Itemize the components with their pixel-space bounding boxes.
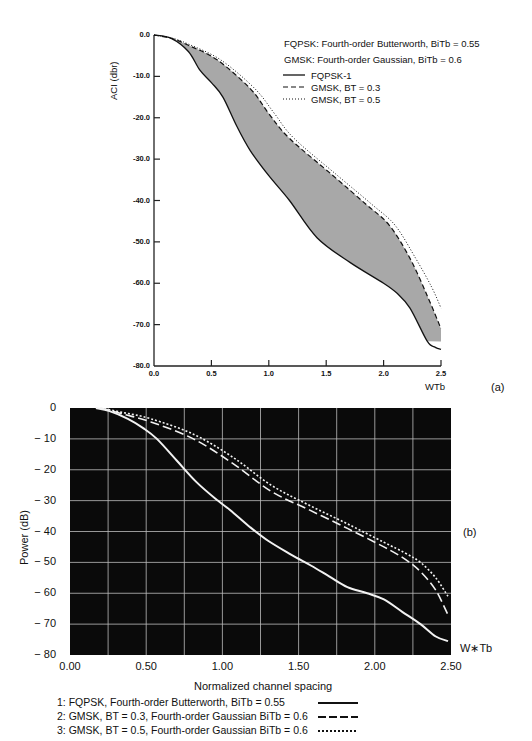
chart-a-xtick-label: 2.5 bbox=[436, 369, 446, 378]
chart-b-xtick-label: 2.50 bbox=[440, 660, 461, 672]
chart-a-subtitle-2: GMSK: Fourth-order Gaussian, BiTb = 0.6 bbox=[284, 54, 462, 65]
chart-b-axis-end-label: W∗Tb bbox=[460, 642, 492, 655]
chart-a-ytick-label: -20.0 bbox=[133, 113, 150, 122]
chart-b-xtick-label: 0.00 bbox=[59, 660, 80, 672]
figure: ACI (dbr) FQPSK: Fourth-order Butterwort… bbox=[0, 0, 532, 741]
chart-b-ytick-label: − 70 bbox=[34, 617, 56, 629]
chart-a-ytick-label: 0.0 bbox=[140, 30, 150, 39]
chart-b-ytick-label: − 20 bbox=[34, 463, 56, 475]
chart-b-xtick-label: 0.50 bbox=[135, 660, 156, 672]
chart-a-legend-2: GMSK, BT = 0.3 bbox=[311, 82, 380, 93]
chart-a-ytick-label: -70.0 bbox=[133, 320, 150, 329]
chart-b-xtick-label: 2.00 bbox=[364, 660, 385, 672]
chart-a-legend-3: GMSK, BT = 0.5 bbox=[311, 94, 380, 105]
chart-a-xtick-label: 1.0 bbox=[264, 369, 274, 378]
chart-b-xtick-label: 1.00 bbox=[212, 660, 233, 672]
chart-a-ytick-label: -60.0 bbox=[133, 278, 150, 287]
chart-a-xlabel: WTb bbox=[425, 381, 445, 392]
chart-b-ytick-label: − 80 bbox=[34, 648, 56, 660]
chart-a-ytick-label: -50.0 bbox=[133, 237, 150, 246]
chart-b-ytick-label: − 10 bbox=[34, 432, 56, 444]
chart-a-panel-label: (a) bbox=[491, 381, 504, 393]
chart-b-ytick-label: − 40 bbox=[34, 525, 56, 537]
chart-b-xlabel: Normalized channel spacing bbox=[194, 680, 332, 692]
chart-b-legend-1: 1: FQPSK, Fourth-order Butterworth, BiTb… bbox=[57, 696, 285, 708]
chart-b-ytick-label: 0 bbox=[50, 401, 56, 413]
chart-b-ytick-label: − 50 bbox=[34, 555, 56, 567]
chart-a-xtick-label: 2.0 bbox=[378, 369, 388, 378]
chart-b-ylabel: Power (dB) bbox=[18, 510, 30, 565]
chart-a-ytick-label: -40.0 bbox=[133, 196, 150, 205]
chart-a-subtitle-1: FQPSK: Fourth-order Butterworth, BiTb = … bbox=[284, 38, 480, 49]
chart-a-xtick-label: 0.0 bbox=[149, 369, 159, 378]
chart-b-xtick-label: 1.50 bbox=[288, 660, 309, 672]
chart-a-ytick-label: -30.0 bbox=[133, 154, 150, 163]
chart-a-legend-1: FQPSK-1 bbox=[311, 70, 352, 81]
chart-b-legend-3: 3: GMSK, BT = 0.5, Fourth-order Gaussian… bbox=[57, 724, 308, 736]
chart-a-xtick-label: 1.5 bbox=[321, 369, 331, 378]
chart-a-xtick-label: 0.5 bbox=[206, 369, 216, 378]
chart-a-shaded-region bbox=[154, 35, 441, 341]
chart-b-legend-2: 2: GMSK, BT = 0.3, Fourth-order Gaussian… bbox=[57, 710, 308, 722]
chart-a-ytick-label: -80.0 bbox=[133, 361, 150, 370]
chart-b-panel-label: (b) bbox=[463, 526, 476, 538]
chart-b-ytick-label: − 60 bbox=[34, 586, 56, 598]
chart-a-ylabel: ACI (dbr) bbox=[108, 61, 119, 100]
chart-a-ytick-label: -10.0 bbox=[133, 71, 150, 80]
chart-b-ytick-label: − 30 bbox=[34, 494, 56, 506]
